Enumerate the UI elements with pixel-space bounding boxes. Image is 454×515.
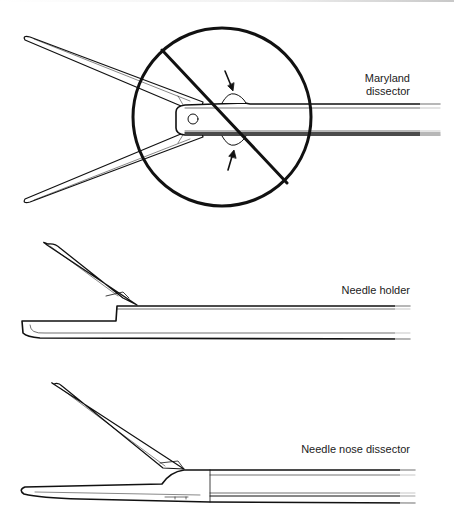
label-maryland-dissector: Maryland dissector (340, 72, 410, 98)
shaft (22, 306, 410, 339)
maryland-dissector (24, 28, 454, 206)
compression-arrow-bottom-icon (228, 150, 236, 170)
upper-jaw (24, 36, 203, 114)
upper-bulge (222, 94, 246, 103)
label-line-1: Maryland (340, 72, 410, 85)
label-needle-nose-dissector: Needle nose dissector (270, 443, 410, 456)
compression-arrow-top-icon (225, 71, 234, 91)
label-line-2: dissector (340, 85, 410, 98)
upper-jaw (52, 383, 184, 469)
label-needle-holder: Needle holder (300, 284, 410, 297)
lower-jaw (24, 126, 203, 203)
